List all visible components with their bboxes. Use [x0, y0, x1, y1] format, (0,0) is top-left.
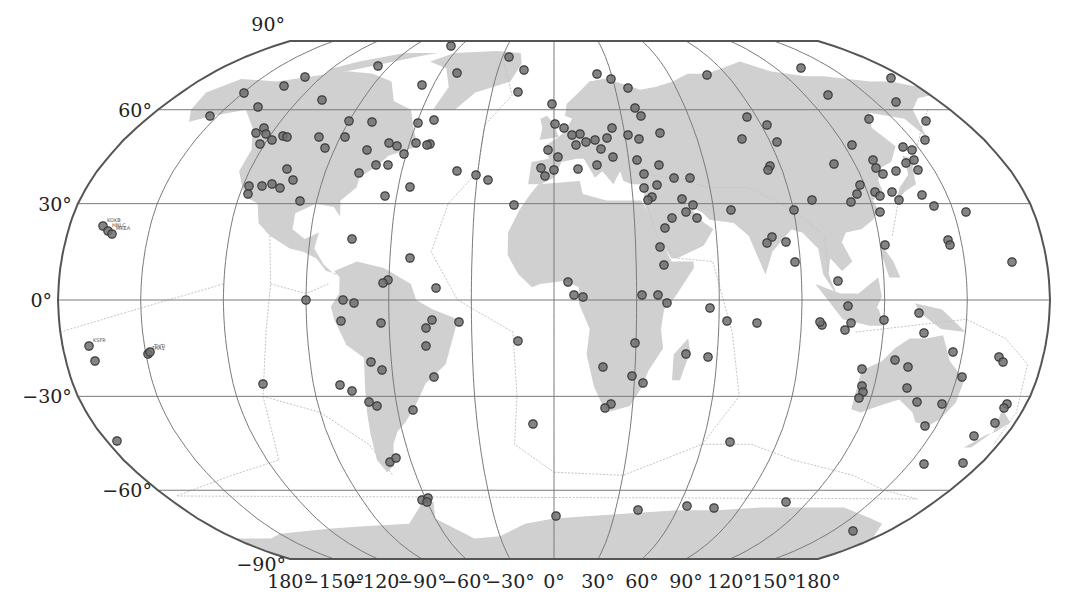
station-marker [430, 373, 438, 381]
station-marker [653, 181, 661, 189]
station-marker [763, 121, 771, 129]
station-marker [400, 150, 408, 158]
station-marker [1000, 404, 1008, 412]
latitude-label: 30° [38, 193, 72, 215]
station-marker [345, 117, 353, 125]
station-marker [355, 169, 363, 177]
station-marker [791, 258, 799, 266]
station-marker [276, 184, 284, 192]
station-marker [704, 353, 712, 361]
station-marker [283, 133, 291, 141]
station-marker [913, 398, 921, 406]
station-marker [374, 62, 382, 70]
station-marker [428, 316, 436, 324]
station-marker [576, 130, 584, 138]
station-marker [790, 206, 798, 214]
station-marker [922, 117, 930, 125]
station-marker [683, 502, 691, 510]
station-marker [541, 172, 549, 180]
station-marker [350, 299, 358, 307]
station-marker [920, 460, 928, 468]
station-marker [453, 167, 461, 175]
station-marker [552, 512, 560, 520]
station-marker [991, 419, 999, 427]
station-marker [710, 504, 718, 512]
latitude-label: 60° [118, 99, 152, 121]
station-marker [637, 112, 645, 120]
station-marker [550, 166, 558, 174]
longitude-label: 30° [581, 570, 615, 592]
station-marker [921, 422, 929, 430]
station-marker [318, 96, 326, 104]
station-marker [640, 184, 648, 192]
station-marker [773, 138, 781, 146]
station-marker [422, 342, 430, 350]
station-marker [455, 318, 463, 326]
station-marker [726, 438, 734, 446]
station-marker [348, 235, 356, 243]
station-marker [579, 293, 587, 301]
station-marker [876, 192, 884, 200]
station-marker [682, 208, 690, 216]
station-marker [597, 145, 605, 153]
station-marker [880, 316, 888, 324]
station-marker [938, 400, 946, 408]
station-marker [902, 159, 910, 167]
station-marker [638, 291, 646, 299]
station-marker [302, 296, 310, 304]
station-marker [321, 144, 329, 152]
station-marker [872, 164, 880, 172]
station-marker [881, 241, 889, 249]
station-marker [853, 190, 861, 198]
station-marker [949, 348, 957, 356]
station-marker [252, 129, 260, 137]
station-marker [372, 161, 380, 169]
station-marker [855, 394, 863, 402]
station-marker [903, 384, 911, 392]
longitude-label: −30° [485, 570, 535, 592]
latitude-label: −60° [102, 479, 152, 501]
station-marker [423, 141, 431, 149]
latitude-label: 0° [30, 289, 52, 311]
station-marker [634, 506, 642, 514]
station-marker [946, 241, 954, 249]
station-marker [544, 146, 552, 154]
station-marker [892, 167, 900, 175]
station-marker [656, 243, 664, 251]
station-marker [663, 299, 671, 307]
station-marker [921, 136, 929, 144]
latitude-label: −30° [22, 385, 72, 407]
station-marker [384, 161, 392, 169]
station-marker [640, 170, 648, 178]
station-marker [930, 202, 938, 210]
station-marker [876, 208, 884, 216]
station-marker [624, 131, 632, 139]
station-marker [910, 156, 918, 164]
station-marker [406, 183, 414, 191]
station-marker [891, 356, 899, 364]
station-marker [723, 317, 731, 325]
station-marker [624, 84, 632, 92]
station-marker [447, 42, 455, 50]
station-marker [918, 191, 926, 199]
station-marker [668, 214, 676, 222]
station-marker [381, 192, 389, 200]
station-marker [368, 118, 376, 126]
station-marker [599, 363, 607, 371]
station-marker [572, 141, 580, 149]
station-marker [564, 278, 572, 286]
station-marker [514, 88, 522, 96]
station-marker [591, 136, 599, 144]
station-marker [537, 164, 545, 172]
station-marker [432, 284, 440, 292]
station-marker [206, 112, 214, 120]
station-marker [259, 380, 267, 388]
station-marker [422, 324, 430, 332]
station-label: THTI [153, 343, 165, 349]
station-marker [670, 174, 678, 182]
station-marker [970, 432, 978, 440]
station-marker [256, 140, 264, 148]
station-marker [289, 176, 297, 184]
station-marker [782, 498, 790, 506]
station-marker [816, 318, 824, 326]
